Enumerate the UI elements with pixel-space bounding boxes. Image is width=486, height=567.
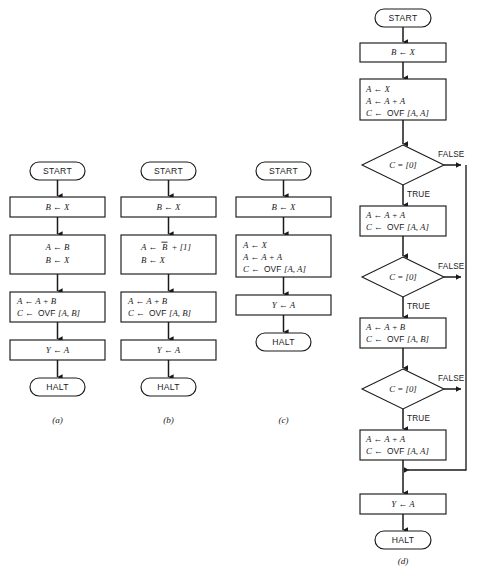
panel-a-process-3-args: [A, B] xyxy=(58,308,81,318)
panel-d-process-5-assign: C ← xyxy=(366,446,383,456)
panel-b: START B ← X A ← B + [1] B ← X xyxy=(121,162,216,425)
panel-d-process-5-line-1: A ← A + A xyxy=(365,434,406,444)
panel-c-caption: (c) xyxy=(278,415,288,425)
panel-d-decision-3: C = [0] xyxy=(362,369,444,409)
panel-d-process-4-assign: C ← xyxy=(366,334,383,344)
panel-d-process-3: A ← A + A C ← OVF [A, A] xyxy=(360,206,446,236)
panel-c-process-3-line-1: Y ← A xyxy=(272,300,296,310)
panel-d-process-2-assign: C ← xyxy=(366,108,383,118)
panel-d-decision-1-condition: C = [0] xyxy=(389,160,417,170)
panel-d-decision-3-true-label: TRUE xyxy=(407,414,430,423)
panel-b-process-3: A ← A + B C ← OVF [A, B] xyxy=(121,292,216,322)
panel-d-halt-terminal: HALT xyxy=(375,531,431,549)
panel-a-process-4: Y ← A xyxy=(10,340,105,360)
panel-a-process-3-line-1: A ← A + B xyxy=(16,296,57,306)
panel-d-process-5-line-2: C ← OVF [A, A] xyxy=(366,446,429,456)
panel-d-process-6: Y ← A xyxy=(360,494,446,514)
panel-d-process-1: B ← X xyxy=(360,43,446,62)
panel-d-process-4-args: [A, B] xyxy=(407,334,430,344)
panel-b-start-terminal: START xyxy=(141,162,196,180)
panel-b-process-4-line-1: Y ← A xyxy=(157,345,181,355)
panel-c-halt-label: HALT xyxy=(272,337,295,347)
panel-d-process-5-ovf: OVF xyxy=(387,446,404,456)
panel-b-process-4: Y ← A xyxy=(121,340,216,360)
panel-d-caption: (d) xyxy=(398,556,409,566)
panel-c-process-1: B ← X xyxy=(236,197,331,217)
panel-d-decision-2-condition: C = [0] xyxy=(389,272,417,282)
panel-a-process-2-line-1: A ← B xyxy=(45,242,70,252)
panel-a: START B ← X A ← B B ← X A ← A + B C ← OV… xyxy=(10,162,105,425)
panel-a-process-3-line-2: C ← OVF [A, B] xyxy=(17,308,81,318)
panel-d-decision-2-true-label: TRUE xyxy=(407,302,430,311)
flowchart-figure: START B ← X A ← B B ← X A ← A + B C ← OV… xyxy=(0,0,486,567)
panel-d-process-6-line-1: Y ← A xyxy=(391,499,415,509)
panel-d-process-2-ovf: OVF xyxy=(387,108,404,118)
panel-d: START B ← X A ← X A ← A + A C ← OVF [A, … xyxy=(360,9,466,566)
panel-b-caption: (b) xyxy=(163,415,174,425)
flowchart-canvas: START B ← X A ← B B ← X A ← A + B C ← OV… xyxy=(0,0,486,567)
panel-d-decision-2: C = [0] xyxy=(362,257,444,297)
panel-d-process-4-line-1: A ← A + B xyxy=(365,322,406,332)
panel-b-process-2-line-1: A ← B + [1] xyxy=(140,242,191,252)
panel-d-decision-3-condition: C = [0] xyxy=(389,384,417,394)
panel-d-decision-1: C = [0] xyxy=(362,145,444,185)
panel-a-start-terminal: START xyxy=(30,162,85,180)
panel-c: START B ← X A ← X A ← A + A C ← OVF [A, … xyxy=(236,162,331,425)
panel-d-process-5-args: [A, A] xyxy=(407,446,429,456)
panel-b-process-2: A ← B + [1] B ← X xyxy=(121,235,216,274)
panel-d-process-4-line-2: C ← OVF [A, B] xyxy=(366,334,430,344)
panel-c-process-3: Y ← A xyxy=(236,295,331,315)
panel-b-complement-assign: A ← xyxy=(140,242,157,252)
panel-a-start-label: START xyxy=(43,166,73,176)
panel-d-decision-1-true-label: TRUE xyxy=(407,190,430,199)
panel-a-halt-terminal: HALT xyxy=(30,378,85,396)
panel-a-process-3: A ← A + B C ← OVF [A, B] xyxy=(10,292,105,322)
panel-c-process-2-ovf: OVF xyxy=(264,264,281,274)
panel-b-process-3-assign: C ← xyxy=(128,308,145,318)
panel-d-process-3-line-2: C ← OVF [A, A] xyxy=(366,222,429,232)
panel-d-process-4: A ← A + B C ← OVF [A, B] xyxy=(360,318,446,348)
panel-b-complement-post: + [1] xyxy=(172,242,192,252)
panel-d-decision-2-false-label: FALSE xyxy=(438,262,465,271)
panel-a-process-2-line-2: B ← X xyxy=(46,255,71,265)
panel-b-complement-operand: B xyxy=(162,242,168,252)
panel-b-process-1-line-1: B ← X xyxy=(157,202,182,212)
panel-a-process-3-ovf: OVF xyxy=(38,308,55,318)
panel-c-process-2: A ← X A ← A + A C ← OVF [A, A] xyxy=(236,235,331,277)
panel-d-decision-1-false-label: FALSE xyxy=(438,150,465,159)
panel-d-process-3-assign: C ← xyxy=(366,222,383,232)
panel-b-process-1: B ← X xyxy=(121,197,216,217)
panel-a-halt-label: HALT xyxy=(46,382,69,392)
panel-c-process-2-args: [A, A] xyxy=(284,264,306,274)
panel-c-process-2-line-1: A ← X xyxy=(242,240,267,250)
panel-d-process-2-line-2: A ← A + A xyxy=(365,96,406,106)
panel-a-process-3-assign: C ← xyxy=(17,308,34,318)
panel-a-caption: (a) xyxy=(52,415,63,425)
panel-d-process-3-line-1: A ← A + A xyxy=(365,210,406,220)
panel-b-process-2-line-2: B ← X xyxy=(141,255,166,265)
panel-d-process-5: A ← A + A C ← OVF [A, A] xyxy=(360,430,446,460)
panel-b-process-3-line-1: A ← A + B xyxy=(127,296,168,306)
panel-c-process-2-line-3: C ← OVF [A, A] xyxy=(243,264,306,274)
panel-d-start-terminal: START xyxy=(375,9,431,27)
panel-d-process-2-line-3: C ← OVF [A, A] xyxy=(366,108,429,118)
panel-a-process-1: B ← X xyxy=(10,197,105,217)
panel-b-halt-terminal: HALT xyxy=(141,378,196,396)
panel-b-halt-label: HALT xyxy=(157,382,180,392)
panel-d-decision-3-false-label: FALSE xyxy=(438,374,465,383)
panel-b-start-label: START xyxy=(154,166,184,176)
panel-d-process-3-ovf: OVF xyxy=(387,222,404,232)
panel-c-process-2-assign: C ← xyxy=(243,264,260,274)
panel-d-process-4-ovf: OVF xyxy=(387,334,404,344)
panel-a-process-2: A ← B B ← X xyxy=(10,235,105,274)
panel-d-start-label: START xyxy=(388,13,418,23)
panel-c-start-label: START xyxy=(269,166,299,176)
panel-a-process-1-line-1: B ← X xyxy=(46,202,71,212)
panel-b-process-3-args: [A, B] xyxy=(169,308,192,318)
panel-c-halt-terminal: HALT xyxy=(256,333,311,351)
panel-a-process-4-line-1: Y ← A xyxy=(46,345,70,355)
panel-d-process-2: A ← X A ← A + A C ← OVF [A, A] xyxy=(360,79,446,120)
panel-c-process-1-line-1: B ← X xyxy=(272,202,297,212)
panel-d-halt-label: HALT xyxy=(392,535,415,545)
panel-b-process-3-line-2: C ← OVF [A, B] xyxy=(128,308,192,318)
